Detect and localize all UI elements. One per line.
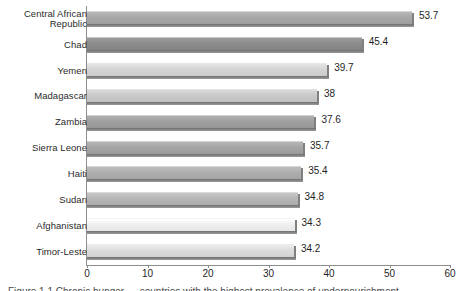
bar [87, 192, 298, 205]
x-tick-mark [208, 265, 209, 268]
value-label: 39.7 [334, 62, 353, 73]
x-tick-label: 0 [84, 268, 90, 279]
bar [87, 166, 301, 179]
x-tick-label: 60 [444, 268, 455, 279]
bar [87, 11, 412, 24]
value-label: 34.2 [301, 243, 320, 254]
plot-area: Central African Republic53.7Chad45.4Yeme… [0, 0, 470, 291]
x-tick-label: 10 [142, 268, 153, 279]
bar-row: Central African Republic53.7 [0, 6, 470, 32]
category-label: Zambia [3, 117, 87, 128]
category-label: Timor-Leste [3, 247, 87, 258]
bar [87, 37, 362, 50]
value-label: 35.4 [308, 165, 327, 176]
category-label: Haiti [3, 169, 87, 180]
bar [87, 63, 327, 76]
bar-container [87, 192, 298, 208]
category-label: Sudan [3, 195, 87, 206]
category-label: Chad [3, 40, 87, 51]
value-label: 53.7 [419, 10, 438, 21]
bar-container [87, 218, 295, 234]
bar-chart: Central African Republic53.7Chad45.4Yeme… [0, 0, 470, 291]
x-tick-mark [329, 265, 330, 268]
bar-container [87, 244, 294, 260]
bar-row: Zambia37.6 [0, 110, 470, 136]
bar-container [87, 115, 314, 131]
bar-row: Madagascar38 [0, 84, 470, 110]
bar-row: Chad45.4 [0, 32, 470, 58]
category-label: Central African Republic [3, 9, 87, 30]
x-tick-label: 50 [384, 268, 395, 279]
bar [87, 244, 294, 257]
bar-row: Afghanistan34.3 [0, 213, 470, 239]
x-tick-mark [148, 265, 149, 268]
bar [87, 141, 303, 154]
bar-container [87, 11, 412, 27]
value-label: 38 [324, 88, 335, 99]
x-tick-label: 40 [323, 268, 334, 279]
value-label: 34.3 [302, 217, 321, 228]
bar-row: Haiti35.4 [0, 161, 470, 187]
x-tick-label: 20 [202, 268, 213, 279]
bar-container [87, 63, 327, 79]
value-label: 35.7 [310, 140, 329, 151]
x-tick-mark [390, 265, 391, 268]
x-tick-mark [269, 265, 270, 268]
bar-row: Yemen39.7 [0, 58, 470, 84]
category-label: Yemen [3, 66, 87, 77]
value-label: 45.4 [369, 36, 388, 47]
figure-caption: Figure 1.1 Chronic hunger — countries wi… [8, 286, 462, 291]
category-label: Sierra Leone [3, 143, 87, 154]
category-label: Madagascar [3, 91, 87, 102]
bar-container [87, 37, 362, 53]
category-label: Afghanistan [3, 221, 87, 232]
x-tick-mark [450, 265, 451, 268]
bar-container [87, 166, 301, 182]
bar-container [87, 89, 317, 105]
bar-container [87, 141, 303, 157]
bar-row: Sudan34.8 [0, 187, 470, 213]
bar [87, 115, 314, 128]
bar-row: Timor-Leste34.2 [0, 239, 470, 265]
value-label: 37.6 [321, 114, 340, 125]
bar [87, 218, 295, 231]
bar [87, 89, 317, 102]
x-tick-mark [87, 265, 88, 268]
x-tick-label: 30 [263, 268, 274, 279]
bar-row: Sierra Leone35.7 [0, 136, 470, 162]
value-label: 34.8 [305, 191, 324, 202]
